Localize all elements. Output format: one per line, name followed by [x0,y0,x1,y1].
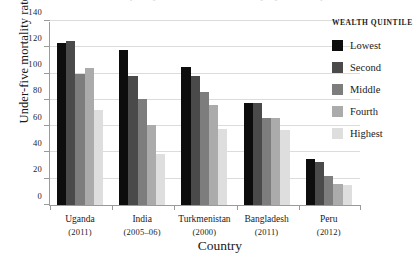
bar [306,159,315,205]
legend-item-middle[interactable]: Middle [332,78,420,100]
bar [75,74,84,205]
bar [85,68,94,205]
x-axis-category-label: Peru(2012) [289,213,369,239]
x-axis-tick [50,205,51,210]
x-axis-tick [174,205,175,210]
bar [57,43,66,205]
x-axis-tick [360,205,361,210]
bar [280,130,289,205]
legend-item-lowest[interactable]: Lowest [332,34,420,56]
bar-group [244,22,290,205]
x-axis-tick [112,205,113,210]
bar-groups: Uganda(2011)India(2005–06)Turkmenistan(2… [50,22,360,205]
x-axis-tick [237,205,238,210]
gridline [50,20,360,21]
legend-swatch-icon [332,40,343,51]
legend-swatch-icon [332,84,343,95]
bar [343,185,352,205]
category-name: Peru [320,214,337,224]
bar [138,99,147,205]
bar [66,41,75,205]
legend-item-second[interactable]: Second [332,56,420,78]
legend-item-label: Second [350,62,381,73]
category-name: Bangladesh [244,214,288,224]
bar [253,103,262,206]
y-axis-tick-label: 140 [28,7,42,17]
legend-item-highest[interactable]: Highest [332,122,420,144]
category-name: Turkmenistan [178,214,230,224]
legend-items: LowestSecondMiddleFourthHighest [332,34,420,144]
x-axis-title: Country [160,238,280,254]
bar [271,118,280,205]
legend-swatch-icon [332,128,343,139]
legend-title: WEALTH QUINTILE [332,18,420,27]
legend-swatch-icon [332,62,343,73]
legend-item-label: Fourth [350,106,378,117]
category-year: (2012) [289,226,369,239]
bar [244,103,253,206]
bar [156,154,165,205]
bar [315,162,324,205]
bar [262,118,271,205]
legend-item-fourth[interactable]: Fourth [332,100,420,122]
chart-figure: Under-five mortality rate Country 020406… [0,0,420,263]
bar [94,110,103,205]
bar [181,67,190,205]
y-axis-tick-label: 100 [28,59,42,69]
y-axis-tick-label: 80 [33,85,42,95]
y-axis-tick [44,20,50,21]
bar [218,129,227,205]
y-axis-tick-label: 120 [28,33,42,43]
legend-item-label: Lowest [350,40,381,51]
bar [200,92,209,205]
bar [333,184,342,205]
bar [191,76,200,205]
bar-group [119,22,165,205]
bar [147,125,156,205]
x-axis-tick [299,205,300,210]
y-axis-title: Under-five mortality rate [17,0,32,150]
y-axis-tick-label: 60 [33,112,42,122]
legend-item-label: Highest [350,128,383,139]
bar [128,76,137,205]
bar [209,105,218,205]
y-axis-tick-label: 40 [33,138,42,148]
legend: WEALTH QUINTILE LowestSecondMiddleFourth… [332,18,420,144]
y-axis-tick-label: 0 [37,191,42,201]
plot-area: 020406080100120140 Uganda(2011)India(200… [49,22,360,206]
y-axis-tick-label: 20 [33,164,42,174]
legend-item-label: Middle [350,84,380,95]
bar-group [181,22,227,205]
bar-group [57,22,103,205]
bar [119,50,128,205]
bar [324,176,333,205]
category-name: India [132,214,152,224]
category-name: Uganda [65,214,95,224]
legend-swatch-icon [332,106,343,117]
